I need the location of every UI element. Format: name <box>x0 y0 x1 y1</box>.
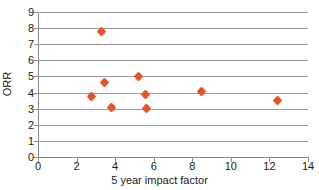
gridline <box>38 44 308 45</box>
y-tick-mark <box>34 28 38 29</box>
y-tick-mark <box>34 44 38 45</box>
x-tick-label: 2 <box>74 161 80 172</box>
x-tick-mark <box>231 158 232 162</box>
gridline <box>38 141 308 142</box>
x-tick-mark <box>269 158 270 162</box>
gridline <box>38 76 308 77</box>
x-tick-label: 8 <box>189 161 195 172</box>
gridline <box>38 60 308 61</box>
x-tick-label: 0 <box>35 161 41 172</box>
y-tick-mark <box>34 125 38 126</box>
x-tick-mark <box>38 158 39 162</box>
y-tick-mark <box>34 93 38 94</box>
gridline <box>38 28 308 29</box>
gridline <box>38 109 308 110</box>
x-tick-mark <box>77 158 78 162</box>
x-tick-label: 6 <box>151 161 157 172</box>
y-tick-mark <box>34 76 38 77</box>
y-tick-mark <box>34 60 38 61</box>
gridline <box>38 12 308 13</box>
x-tick-label: 4 <box>112 161 118 172</box>
plot-area <box>38 12 309 158</box>
x-axis-title: 5 year impact factor <box>0 174 319 186</box>
y-tick-mark <box>34 109 38 110</box>
y-tick-mark <box>34 141 38 142</box>
gridline <box>38 93 308 94</box>
x-tick-label: 12 <box>263 161 275 172</box>
scatter-chart: 0123456789 02468101214 ORR 5 year impact… <box>0 0 319 190</box>
y-tick-mark <box>34 12 38 13</box>
x-tick-label: 10 <box>225 161 237 172</box>
x-tick-label: 14 <box>302 161 314 172</box>
x-axis-tick-labels: 02468101214 <box>38 161 308 175</box>
x-tick-mark <box>154 158 155 162</box>
y-axis-title: ORR <box>1 64 13 104</box>
y-axis-tick-labels: 0123456789 <box>18 12 34 157</box>
x-tick-mark <box>192 158 193 162</box>
x-tick-mark <box>115 158 116 162</box>
x-tick-mark <box>308 158 309 162</box>
gridline <box>38 125 308 126</box>
